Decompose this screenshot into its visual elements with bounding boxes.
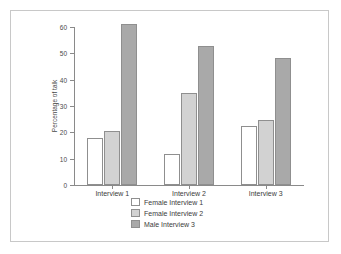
plot-area: Percentage of talk 0102030405060 Intervi… [74,27,304,185]
y-axis-tick-label: 20 [60,129,67,136]
x-axis-tick [266,185,267,189]
y-axis-tick: 60 [70,27,74,28]
y-axis-tick-label: 40 [60,76,67,83]
legend-swatch [131,220,140,228]
bar-group [87,27,137,185]
bar [181,93,197,185]
bar-group [241,27,291,185]
y-axis-tick: 10 [70,159,74,160]
bar [275,58,291,185]
y-axis-tick: 30 [70,106,74,107]
bar [121,24,137,185]
bar [258,120,274,185]
y-axis-tick-label: 30 [60,103,67,110]
y-axis-tick-label: 60 [60,24,67,31]
legend-item: Male Interview 3 [131,219,203,230]
y-axis-tick: 0 [70,185,74,186]
legend-swatch [131,209,140,217]
y-axis-tick-label: 0 [63,182,67,189]
bar [241,126,257,185]
y-axis-line [74,27,75,185]
legend-label: Female Interview 2 [144,210,203,217]
x-axis-tick-label: Interview 3 [249,190,283,197]
x-axis-tick [112,185,113,189]
legend-label: Female Interview 1 [144,199,203,206]
bar [198,46,214,185]
legend-swatch [131,198,140,206]
y-axis-tick: 20 [70,132,74,133]
bar [87,138,103,185]
bar-group [164,27,214,185]
chart-legend: Female Interview 1Female Interview 2Male… [131,197,203,230]
y-axis-title: Percentage of talk [51,80,58,132]
legend-item: Female Interview 1 [131,197,203,208]
bar [104,131,120,185]
y-axis-tick: 40 [70,80,74,81]
legend-label: Male Interview 3 [144,221,195,228]
y-axis-tick: 50 [70,53,74,54]
y-axis-tick-label: 50 [60,50,67,57]
x-axis-tick-label: Interview 2 [172,190,206,197]
x-axis-tick-label: Interview 1 [95,190,129,197]
bar [164,154,180,185]
figure-panel: Percentage of talk 0102030405060 Intervi… [10,10,329,242]
legend-item: Female Interview 2 [131,208,203,219]
x-axis-tick [189,185,190,189]
y-axis-tick-label: 10 [60,155,67,162]
